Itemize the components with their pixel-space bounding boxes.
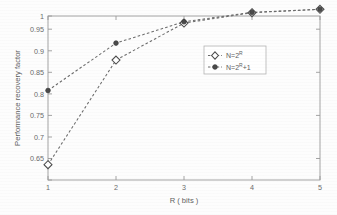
y-tick-label: 0.95 <box>30 25 44 34</box>
chart-legend[interactable]: N=2R N=2R+1 <box>204 46 266 74</box>
legend-label-n-2r-plus-1: N=2R+1 <box>226 62 251 71</box>
y-tick-label: 0.75 <box>30 111 44 120</box>
x-tick-label: 2 <box>114 183 118 192</box>
dot-marker-icon <box>213 65 218 70</box>
legend-label-exponent: R <box>239 50 243 56</box>
series-markers-n-2r <box>44 5 324 168</box>
x-axis-title: R ( bits ) <box>170 196 199 205</box>
performance-recovery-chart: 0.65 0.7 0.75 0.8 0.85 0.9 0.95 1 1 2 3 … <box>0 0 337 215</box>
series-line-n-2r <box>48 9 320 164</box>
series-markers-n-2r-plus-1 <box>46 7 323 93</box>
plot-frame <box>48 16 320 180</box>
x-tick-labels: 1 2 3 4 5 <box>46 183 322 192</box>
y-axis-title: Performance recovery factor <box>13 50 22 146</box>
x-tick-label: 1 <box>46 183 50 192</box>
y-tick-labels: 0.65 0.7 0.75 0.8 0.85 0.9 0.95 1 <box>30 12 44 164</box>
y-tick-label: 0.85 <box>30 68 44 77</box>
x-tick-marks <box>48 16 320 180</box>
y-tick-marks <box>48 16 320 180</box>
x-tick-label: 4 <box>250 183 254 192</box>
x-tick-label: 3 <box>182 183 186 192</box>
y-tick-label: 0.7 <box>34 133 44 142</box>
x-tick-label: 5 <box>318 183 322 192</box>
y-tick-label: 0.65 <box>30 154 44 163</box>
legend-label-base: N=2 <box>226 52 239 59</box>
figure-canvas: 0.65 0.7 0.75 0.8 0.85 0.9 0.95 1 1 2 3 … <box>0 0 337 215</box>
legend-label-base: N=2 <box>226 64 239 71</box>
y-tick-label: 0.8 <box>34 90 44 99</box>
y-tick-label: 0.9 <box>34 47 44 56</box>
y-tick-label: 1 <box>40 12 44 21</box>
legend-label-suffix: +1 <box>243 64 251 71</box>
